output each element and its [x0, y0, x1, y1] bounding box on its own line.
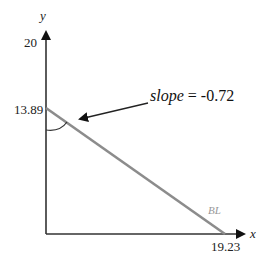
- slope-value: = -0.72: [184, 87, 234, 104]
- budget-line-label: BL: [208, 204, 221, 216]
- y-intercept-label: 13.89: [14, 102, 43, 117]
- budget-line-diagram: y 20 13.89 19.23 x BL slope = -0.72: [0, 0, 268, 266]
- budget-line: [46, 108, 225, 234]
- x-intercept-label: 19.23: [211, 239, 240, 254]
- slope-arrow: [80, 103, 148, 119]
- x-axis-label: x: [249, 226, 256, 241]
- y-max-tick-label: 20: [24, 35, 37, 50]
- angle-arc: [46, 122, 67, 130]
- y-axis-label: y: [38, 8, 46, 23]
- slope-word: slope: [150, 87, 184, 105]
- slope-annotation: slope = -0.72: [150, 87, 234, 105]
